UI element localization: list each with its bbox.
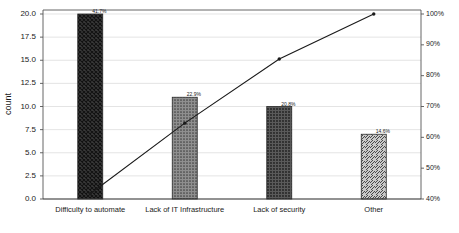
bar-2 bbox=[267, 107, 292, 200]
y-tick-label: 0.0 bbox=[0, 194, 36, 203]
y2-tick-label: 100% bbox=[426, 10, 444, 17]
chart-canvas bbox=[0, 0, 459, 233]
y2-tick-label: 90% bbox=[426, 40, 440, 47]
x-category-label-2: Lack of security bbox=[232, 205, 327, 214]
x-category-label-0: Difficulty to automate bbox=[43, 205, 138, 214]
y-tick-label: 17.5 bbox=[0, 32, 36, 41]
cumulative-line bbox=[89, 12, 376, 195]
bar-percent-label-1: 22.9% bbox=[187, 91, 201, 97]
bar-0 bbox=[78, 14, 103, 199]
pareto-chart: 0.02.55.07.510.012.515.017.520.0 40%50%6… bbox=[0, 0, 459, 233]
y-tick-label: 5.0 bbox=[0, 148, 36, 157]
y-tick-label: 15.0 bbox=[0, 55, 36, 64]
bar-1 bbox=[172, 97, 197, 199]
y-tick-label: 2.5 bbox=[0, 171, 36, 180]
x-category-label-1: Lack of IT Infrastructure bbox=[138, 205, 233, 214]
y2-tick-label: 80% bbox=[426, 71, 440, 78]
bar-percent-label-0: 41.7% bbox=[92, 8, 106, 14]
y2-tick-label: 60% bbox=[426, 133, 440, 140]
y-tick-label: 20.0 bbox=[0, 9, 36, 18]
y2-tick-label: 50% bbox=[426, 164, 440, 171]
y2-tick-label: 40% bbox=[426, 195, 440, 202]
y2-tick-label: 70% bbox=[426, 102, 440, 109]
bar-3 bbox=[361, 134, 386, 199]
bar-percent-label-2: 20.8% bbox=[281, 101, 295, 107]
bar-percent-label-3: 14.6% bbox=[376, 128, 390, 134]
y-axis-title: count bbox=[3, 82, 13, 126]
x-category-label-3: Other bbox=[327, 205, 422, 214]
